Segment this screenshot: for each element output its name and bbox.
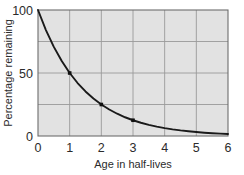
x-tick-label: 0 [35, 141, 42, 155]
y-tick-label: 0 [26, 130, 33, 144]
x-tick-label: 4 [161, 141, 168, 155]
x-axis-tick-labels: 0123456 [35, 141, 232, 155]
data-point-marker [68, 71, 72, 75]
y-axis-title: Percentage remaining [2, 19, 14, 127]
x-tick-label: 6 [225, 141, 232, 155]
x-axis-title: Age in half-lives [94, 158, 172, 170]
data-point-marker [131, 118, 135, 122]
decay-curve-figure: 0123456 050100 Age in half-lives Percent… [0, 0, 244, 175]
y-axis-tick-labels: 050100 [12, 4, 33, 144]
x-tick-label: 1 [66, 141, 73, 155]
y-tick-label: 100 [12, 4, 33, 18]
y-tick-label: 50 [19, 67, 33, 81]
x-tick-label: 5 [193, 141, 200, 155]
data-point-marker [100, 103, 104, 107]
x-tick-label: 3 [130, 141, 137, 155]
x-tick-label: 2 [98, 141, 105, 155]
chart-canvas: 0123456 050100 Age in half-lives Percent… [0, 0, 244, 175]
